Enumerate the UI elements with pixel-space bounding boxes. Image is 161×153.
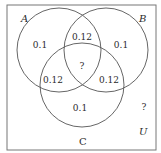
- region-outside: ?: [142, 102, 147, 112]
- region-a-and-c: 0.12: [43, 75, 63, 85]
- region-b-and-c: 0.12: [99, 75, 119, 85]
- set-b-label: B: [138, 13, 146, 24]
- venn-diagram: A B C U 0.1 0.12 0.1 ? 0.12 0.12 0.1 ?: [0, 0, 161, 153]
- universe-label: U: [139, 126, 148, 137]
- region-a-and-b-and-c: ?: [80, 61, 85, 71]
- set-c-label: C: [79, 136, 87, 147]
- region-b-only: 0.1: [114, 40, 128, 50]
- set-a-label: A: [20, 13, 28, 24]
- region-a-and-b: 0.12: [72, 32, 92, 42]
- region-a-only: 0.1: [33, 40, 47, 50]
- region-c-only: 0.1: [73, 103, 87, 113]
- universe-rectangle: [7, 5, 156, 150]
